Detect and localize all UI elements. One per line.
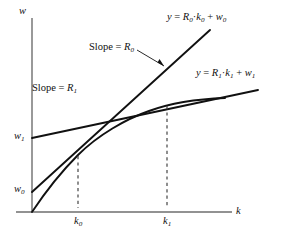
eq-r0-w-sub: 0 (223, 16, 227, 24)
eq-r1-lhs: y (196, 67, 201, 78)
eq-r1-plus: + (236, 67, 242, 78)
tick-label-k0: k0 (74, 216, 82, 228)
slope-r0-word: Slope (89, 41, 113, 52)
figure-container: w k k0 k1 w1 w0 y = R0·k0 + w0 y = R1·k1… (0, 0, 291, 250)
eq-r0-lhs: y (167, 11, 172, 22)
tick-label-w0: w0 (14, 184, 25, 196)
slope-r1-word: Slope (32, 82, 56, 93)
x-axis-label: k (236, 206, 241, 217)
concave-curve (32, 98, 225, 212)
tangent-line-r0 (32, 30, 210, 192)
equation-label-r0: y = R0·k0 + w0 (167, 12, 226, 24)
tick-label-w1: w1 (14, 131, 25, 143)
y-axis-label: w (19, 6, 26, 17)
eq-r0-w: w (216, 11, 223, 22)
slope-r0-r-sub: 0 (131, 46, 135, 54)
eq-r0-equals: = (174, 11, 180, 22)
eq-r0-k-sub: 0 (201, 16, 205, 24)
leader-arrowhead-slope-r0 (158, 59, 165, 66)
tangent-line-r1 (32, 90, 258, 138)
eq-r0-plus: + (207, 11, 213, 22)
slope-annotation-r0: Slope = R0 (89, 42, 134, 54)
equation-label-r1: y = R1·k1 + w1 (196, 68, 255, 80)
tick-label-w0-base: w (14, 183, 21, 194)
tick-label-w1-base: w (14, 130, 21, 141)
tick-label-k1-sub: 1 (168, 220, 172, 228)
slope-annotation-r1: Slope = R1 (32, 83, 77, 95)
slope-r1-equals: = (59, 82, 65, 93)
slope-r0-equals: = (116, 41, 122, 52)
plot-svg (0, 0, 291, 250)
tick-label-k1: k1 (163, 216, 171, 228)
tick-label-w1-sub: 1 (21, 135, 25, 143)
eq-r1-w-sub: 1 (252, 72, 256, 80)
slope-r1-r-sub: 1 (74, 87, 78, 95)
eq-r1-equals: = (203, 67, 209, 78)
tick-label-w0-sub: 0 (21, 188, 25, 196)
eq-r1-k-sub: 1 (230, 72, 234, 80)
eq-r1-w: w (245, 67, 252, 78)
tick-label-k0-sub: 0 (79, 220, 83, 228)
